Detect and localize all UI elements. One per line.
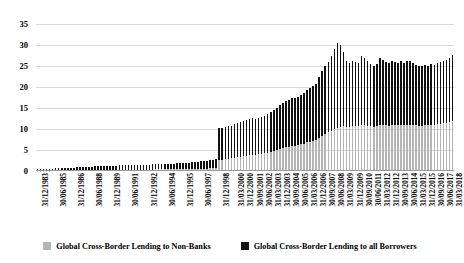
y-axis-tick-label: 20 <box>20 83 29 92</box>
legend-label-non-banks: Global Cross-Border Lending to Non-Banks <box>56 242 210 251</box>
bar-group <box>309 24 311 171</box>
bar-group <box>100 24 102 171</box>
x-axis-tick-label: 31/03/2003 <box>274 173 283 207</box>
plot-area <box>36 24 454 171</box>
bar-group <box>212 24 214 171</box>
x-axis-tick-label: 30/09/2010 <box>365 173 374 207</box>
bar-group <box>243 24 245 171</box>
bar-group <box>376 24 378 171</box>
bar-non-banks <box>273 151 275 171</box>
bar-group <box>43 24 45 171</box>
bar-group <box>149 24 151 171</box>
bar-non-banks <box>406 125 408 171</box>
bar-non-banks <box>300 144 302 171</box>
bar-non-banks <box>249 155 251 171</box>
bar-group <box>276 24 278 171</box>
bar-group <box>312 24 314 171</box>
bar-group <box>185 24 187 171</box>
bar-group <box>400 24 402 171</box>
bar-non-banks <box>334 129 336 171</box>
bar-group <box>331 24 333 171</box>
x-axis-tick-label: 31/12/1983 <box>41 173 50 207</box>
bar-non-banks <box>379 125 381 171</box>
bar-group <box>409 24 411 171</box>
bar-group <box>449 24 451 171</box>
bar-group <box>155 24 157 171</box>
bar-non-banks <box>385 125 387 171</box>
bar-group <box>61 24 63 171</box>
y-axis-tick-label: 5 <box>24 146 28 155</box>
bar-group <box>267 24 269 171</box>
x-axis-tick-label: 31/12/1989 <box>113 173 122 207</box>
bar-non-banks <box>424 125 426 171</box>
bar-non-banks <box>315 140 317 171</box>
x-axis-tick-label: 30/06/1994 <box>168 173 177 207</box>
bar-group <box>264 24 266 171</box>
bar-group <box>421 24 423 171</box>
x-axis-tick-label: 30/06/2008 <box>337 173 346 207</box>
bar-group <box>246 24 248 171</box>
bar-group <box>91 24 93 171</box>
bar-group <box>403 24 405 171</box>
x-axis-tick-label: 31/12/1995 <box>186 173 195 207</box>
bar-group <box>231 24 233 171</box>
bar-group <box>388 24 390 171</box>
bar-non-banks <box>452 121 454 171</box>
bar-non-banks <box>400 125 402 171</box>
bar-non-banks <box>443 123 445 171</box>
legend-item-all-borrowers: Global Cross-Border Lending to all Borro… <box>241 242 417 251</box>
bar-non-banks <box>446 123 448 171</box>
bar-group <box>352 24 354 171</box>
x-axis-tick-label: 30/06/2002 <box>265 173 274 207</box>
bar-group <box>128 24 130 171</box>
bar-non-banks <box>331 131 333 171</box>
bar-non-banks <box>291 146 293 171</box>
bar-group <box>324 24 326 171</box>
bar-group <box>152 24 154 171</box>
bar-group <box>373 24 375 171</box>
bar-group <box>240 24 242 171</box>
x-axis-tick-label: 31/12/1998 <box>222 173 231 207</box>
bar-group <box>337 24 339 171</box>
y-axis-labels: 05101520253035 <box>0 24 32 171</box>
bar-group <box>167 24 169 171</box>
bar-group <box>40 24 42 171</box>
bar-non-banks <box>258 154 260 171</box>
bar-group <box>188 24 190 171</box>
bar-group <box>328 24 330 171</box>
bar-group <box>137 24 139 171</box>
bar-non-banks <box>391 125 393 171</box>
bar-group <box>67 24 69 171</box>
bar-group <box>255 24 257 171</box>
bar-group <box>334 24 336 171</box>
bar-group <box>234 24 236 171</box>
x-axis-tick-label: 31/12/2015 <box>428 173 437 207</box>
bar-non-banks <box>373 127 375 171</box>
bar-group <box>394 24 396 171</box>
bar-non-banks <box>388 126 390 171</box>
x-axis-tick-label: 31/12/2009 <box>356 173 365 207</box>
bar-group <box>303 24 305 171</box>
bar-non-banks <box>349 127 351 171</box>
bar-non-banks <box>267 153 269 171</box>
bar-group <box>182 24 184 171</box>
bar-group <box>397 24 399 171</box>
x-axis-tick-label: 30/06/1985 <box>59 173 68 207</box>
bar-group <box>237 24 239 171</box>
bar-group <box>249 24 251 171</box>
chart-legend: Global Cross-Border Lending to Non-Banks… <box>0 236 460 256</box>
x-axis-tick-label: 30/06/2005 <box>301 173 310 207</box>
bar-group <box>52 24 54 171</box>
bar-group <box>367 24 369 171</box>
bar-group <box>85 24 87 171</box>
bar-non-banks <box>346 127 348 171</box>
bar-group <box>297 24 299 171</box>
bar-group <box>452 24 454 171</box>
x-axis-tick-label: 30/09/2001 <box>256 173 265 207</box>
x-axis-tick-label: 31/12/2012 <box>392 173 401 207</box>
bar-non-banks <box>394 125 396 171</box>
bar-non-banks <box>252 155 254 171</box>
bar-group <box>194 24 196 171</box>
bar-group <box>112 24 114 171</box>
x-axis-line <box>36 170 454 171</box>
